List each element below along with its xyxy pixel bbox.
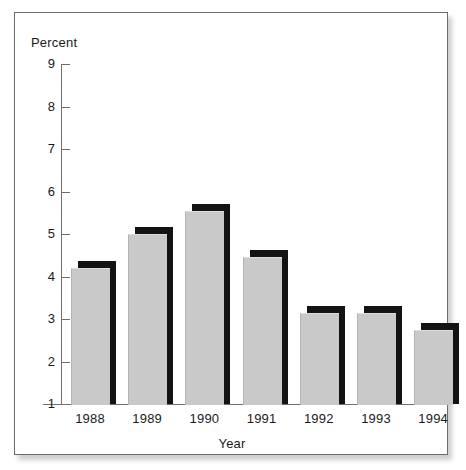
x-axis-tick-label: 1988 [60,411,120,426]
y-axis-tick [62,362,70,363]
bar-side-shadow [223,204,230,404]
y-axis-tick-label: 3 [35,312,55,325]
x-axis-tick-label: 1990 [174,411,234,426]
y-axis-tick-label-wrap: 2 [33,362,55,363]
y-axis-tick-label-wrap: 4 [33,277,55,278]
bar[interactable] [128,227,173,404]
y-axis-tick-label: 1 [35,397,55,410]
y-axis-tick-label: 8 [35,100,55,113]
bar-body [300,313,339,405]
bar-body [243,257,282,405]
y-axis-tick [62,277,70,278]
y-axis-tick [62,107,70,108]
x-axis-tick-label: 1992 [289,411,349,426]
bar-body [128,234,167,405]
bar-body [185,211,224,405]
bar[interactable] [414,323,459,404]
bar-side-shadow [109,261,116,404]
x-axis-tick-label: 1989 [117,411,177,426]
bar-body [71,268,110,405]
y-axis-tick [62,149,70,150]
y-axis-tick [62,234,70,235]
y-axis-tick [62,64,70,65]
y-axis-tick-label-wrap: 9 [33,64,55,65]
bar[interactable] [300,306,345,404]
y-axis-tick-label: 5 [35,227,55,240]
y-axis-tick-label: 6 [35,185,55,198]
x-axis-tick-label: 1991 [232,411,292,426]
y-axis-tick-label: 7 [35,142,55,155]
bar-side-shadow [166,227,173,404]
y-axis-title: Percent [31,35,77,50]
y-axis-tick [62,192,70,193]
bar-side-shadow [395,306,402,404]
bar[interactable] [243,250,288,404]
y-axis-tick-label: 9 [35,57,55,70]
y-axis-tick-label-wrap: 7 [33,149,55,150]
y-axis-tick-label-wrap: 3 [33,319,55,320]
y-axis-tick-label: 4 [35,270,55,283]
bar-chart: Percent 123456789 1988198919901991199219… [15,13,449,456]
bar-side-shadow [281,250,288,404]
x-axis-tick-label: 1993 [346,411,406,426]
bar[interactable] [357,306,402,404]
bar-body [357,313,396,405]
bar-side-shadow [338,306,345,404]
y-axis-tick-label-wrap: 1 [33,404,55,405]
x-axis-tick-label: 1994 [403,411,463,426]
y-axis-tick-label-wrap: 6 [33,192,55,193]
bar[interactable] [185,204,230,404]
y-axis-tick-label: 2 [35,355,55,368]
x-axis-title: Year [15,436,449,451]
figure-frame: Percent 123456789 1988198919901991199219… [14,12,448,455]
y-axis-tick [62,319,70,320]
bar[interactable] [71,261,116,404]
y-axis-tick-label-wrap: 8 [33,107,55,108]
bar-side-shadow [452,323,459,404]
y-axis-tick-label-wrap: 5 [33,234,55,235]
bar-body [414,330,453,405]
